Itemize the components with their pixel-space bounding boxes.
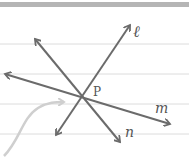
lines-figure: ℓ P m n: [0, 0, 189, 158]
line-n: [35, 39, 120, 142]
label-m: m: [155, 100, 168, 116]
top-bar: [0, 2, 189, 7]
line-l: [56, 25, 130, 135]
pointer-arrow: [4, 102, 64, 156]
label-p: P: [93, 85, 101, 99]
label-l: ℓ: [133, 22, 140, 41]
diagram-canvas: ℓ P m n: [0, 0, 189, 158]
label-n: n: [125, 124, 134, 140]
